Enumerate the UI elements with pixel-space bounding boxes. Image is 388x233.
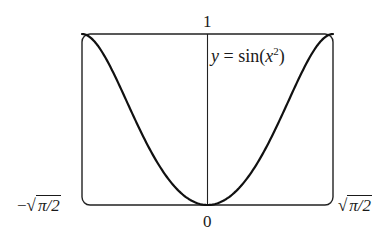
function-label-y: y bbox=[211, 46, 219, 66]
function-label-close: ) bbox=[279, 46, 285, 66]
sqrt-left: √π/2 bbox=[27, 195, 61, 214]
radical-icon: √ bbox=[27, 196, 36, 215]
function-label-x: x bbox=[265, 46, 273, 66]
y-tick-label-1: 1 bbox=[203, 13, 212, 30]
radicand-left: π/2 bbox=[36, 195, 61, 214]
sqrt-right: √π/2 bbox=[338, 195, 372, 214]
radicand-right: π/2 bbox=[347, 195, 372, 214]
function-label-sin: sin( bbox=[238, 46, 265, 66]
x-tick-label-left: −√π/2 bbox=[17, 195, 61, 214]
x-tick-label-center: 0 bbox=[203, 213, 212, 230]
minus-sign: − bbox=[17, 196, 27, 215]
function-label-equals: = bbox=[219, 46, 238, 66]
radical-icon: √ bbox=[338, 196, 347, 215]
x-tick-label-right: √π/2 bbox=[338, 195, 372, 214]
function-label: y = sin(x2) bbox=[211, 47, 285, 65]
